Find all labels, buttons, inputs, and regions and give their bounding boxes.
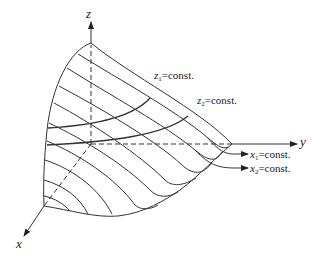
x-axis-label: x (15, 236, 22, 251)
x2-const-label: x2=const. (249, 162, 291, 176)
x1-const-label: x1=const. (249, 148, 291, 162)
z1-const-label: z1=const. (153, 69, 194, 83)
surface-bottom-edge (44, 144, 232, 216)
axes (24, 22, 297, 236)
surface-diagram: z y x z1=const. z2=const. x1=const. x2=c… (0, 0, 313, 255)
z2-const-label: z2=const. (196, 94, 237, 108)
z-axis-label: z (85, 6, 91, 21)
y-axis-label: y (298, 134, 306, 149)
surface (44, 43, 248, 216)
x-axis-arrow (24, 206, 44, 236)
z1-const-curve (48, 98, 150, 128)
x-const-curve (49, 123, 178, 196)
x-const-curve (45, 160, 112, 214)
x-axis-dashed (44, 144, 91, 206)
z2-const-curve (47, 116, 188, 145)
